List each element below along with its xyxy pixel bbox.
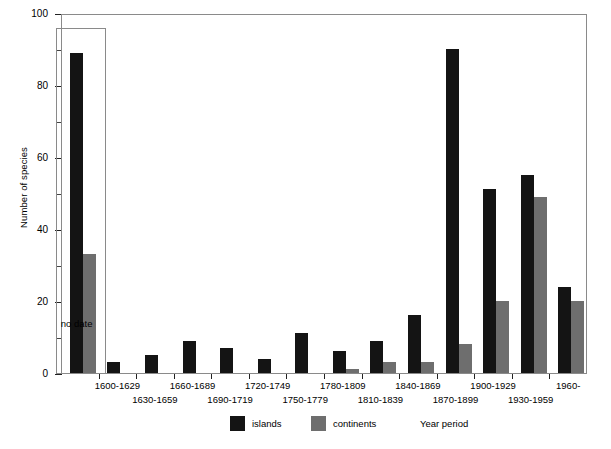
x-tick [474, 374, 475, 379]
x-tick [324, 374, 325, 379]
bar-continents [421, 362, 434, 373]
bar-islands [558, 287, 571, 373]
x-tick [249, 374, 250, 379]
y-tick-label: 20 [8, 296, 48, 307]
x-tick [136, 374, 137, 379]
bar-islands [408, 315, 421, 373]
bar-islands [145, 355, 158, 373]
x-tick [549, 374, 550, 379]
x-axis-label: 1780-1809 [320, 380, 365, 391]
bar-islands [370, 341, 383, 373]
x-tick [399, 374, 400, 379]
bar-islands [521, 175, 534, 373]
x-tick [362, 374, 363, 379]
y-axis-title: Number of species [18, 118, 29, 258]
bar-islands [107, 362, 120, 373]
legend-swatch-continents [311, 416, 326, 431]
x-axis-label: 1810-1839 [358, 394, 403, 405]
bar-islands [258, 359, 271, 373]
x-axis-label: 1840-1869 [395, 380, 440, 391]
x-tick [437, 374, 438, 379]
legend-label-islands: islands [252, 418, 282, 429]
no-date-label: no date [61, 318, 93, 329]
y-tick-label: 80 [8, 80, 48, 91]
legend-swatch-islands [230, 416, 245, 431]
bar-continents [346, 369, 359, 373]
chart-legend: islands continents Year period [0, 414, 611, 438]
x-tick [211, 374, 212, 379]
bar-islands [183, 341, 196, 373]
y-tick-label: 0 [8, 368, 48, 379]
x-tick [174, 374, 175, 379]
x-tick [286, 374, 287, 379]
x-axis-label: 1900-1929 [470, 380, 515, 391]
legend-label-continents: continents [333, 418, 376, 429]
bar-continents [534, 197, 547, 373]
x-axis-label: 1720-1749 [245, 380, 290, 391]
bar-continents [459, 344, 472, 373]
x-tick [512, 374, 513, 379]
bar-continents [383, 362, 396, 373]
x-axis-label: 1630-1659 [132, 394, 177, 405]
bar-continents [571, 301, 584, 373]
bar-chart: Number of species 020406080100 no date 1… [0, 0, 611, 449]
x-axis-label: 1960- [556, 380, 580, 391]
bar-islands [333, 351, 346, 373]
x-axis-label: 1600-1629 [95, 380, 140, 391]
x-tick [99, 374, 100, 379]
bar-islands [220, 348, 233, 373]
x-axis-label: 1870-1899 [433, 394, 478, 405]
x-axis-label: 1690-1719 [207, 394, 252, 405]
y-tick-label: 40 [8, 224, 48, 235]
bar-islands [446, 49, 459, 373]
y-tick-label: 60 [8, 152, 48, 163]
bar-continents [496, 301, 509, 373]
x-axis-title: Year period [420, 418, 468, 429]
x-axis-label: 1750-1779 [282, 394, 327, 405]
y-tick-label: 100 [8, 8, 48, 19]
plot-inner [62, 15, 586, 373]
x-axis-label: 1930-1959 [508, 394, 553, 405]
bar-islands [483, 189, 496, 373]
x-axis-label: 1660-1689 [170, 380, 215, 391]
plot-area [61, 14, 587, 374]
bar-islands [295, 333, 308, 373]
y-tick-major [55, 374, 62, 375]
